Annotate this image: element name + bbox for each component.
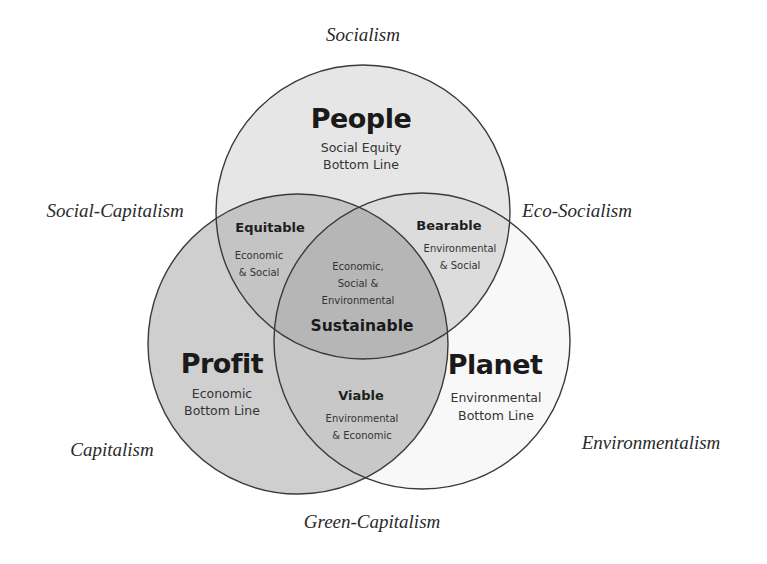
label-socialism: Socialism bbox=[326, 24, 400, 45]
sustainable-title: Sustainable bbox=[310, 317, 413, 335]
label-capitalism: Capitalism bbox=[70, 439, 153, 460]
label-green-capitalism: Green-Capitalism bbox=[304, 511, 441, 532]
people-title: People bbox=[311, 103, 412, 134]
profit-title: Profit bbox=[181, 348, 264, 379]
equitable-title: Equitable bbox=[235, 220, 305, 235]
planet-subtitle-line1: Environmental bbox=[451, 390, 542, 405]
sustainable-subtitle-line1: Economic, bbox=[332, 261, 384, 272]
sustainable-subtitle-line3: Environmental bbox=[322, 295, 395, 306]
label-eco-socialism: Eco-Socialism bbox=[521, 200, 632, 221]
sustainable-subtitle-line2: Social & bbox=[338, 278, 379, 289]
viable-subtitle-line2: & Economic bbox=[332, 430, 391, 441]
equitable-subtitle-line2: & Social bbox=[239, 267, 280, 278]
label-environmentalism: Environmentalism bbox=[581, 432, 721, 453]
bearable-title: Bearable bbox=[416, 218, 481, 233]
people-subtitle-line2: Bottom Line bbox=[323, 157, 399, 172]
viable-subtitle-line1: Environmental bbox=[326, 413, 399, 424]
bearable-subtitle-line1: Environmental bbox=[424, 243, 497, 254]
profit-subtitle-line2: Bottom Line bbox=[184, 403, 260, 418]
planet-subtitle-line2: Bottom Line bbox=[458, 408, 534, 423]
equitable-subtitle-line1: Economic bbox=[235, 250, 283, 261]
planet-title: Planet bbox=[448, 349, 543, 380]
profit-subtitle-line1: Economic bbox=[192, 386, 253, 401]
viable-title: Viable bbox=[338, 388, 384, 403]
venn-diagram: Socialism Social-Capitalism Eco-Socialis… bbox=[0, 0, 767, 564]
bearable-subtitle-line2: & Social bbox=[440, 260, 481, 271]
label-social-capitalism: Social-Capitalism bbox=[46, 200, 183, 221]
people-subtitle-line1: Social Equity bbox=[321, 140, 402, 155]
